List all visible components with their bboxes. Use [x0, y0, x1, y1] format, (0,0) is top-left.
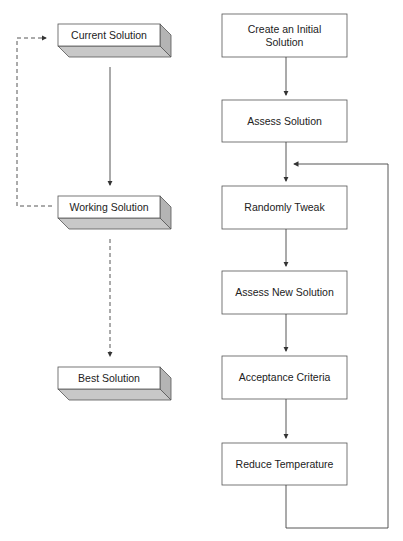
- step-reduce-temp-label: Reduce Temperature: [222, 443, 347, 485]
- step-tweak-label: Randomly Tweak: [222, 186, 347, 229]
- best-solution-label: Best Solution: [58, 367, 160, 389]
- step-assess-new-label: Assess New Solution: [222, 271, 347, 314]
- step-assess-label: Assess Solution: [222, 100, 347, 142]
- current-solution-label: Current Solution: [58, 24, 160, 46]
- working-solution-label: Working Solution: [58, 196, 160, 218]
- working-to-current-dashed-loop: [17, 38, 52, 206]
- step-acceptance-label: Acceptance Criteria: [222, 356, 347, 399]
- step-create-label: Create an Initial Solution: [240, 14, 329, 57]
